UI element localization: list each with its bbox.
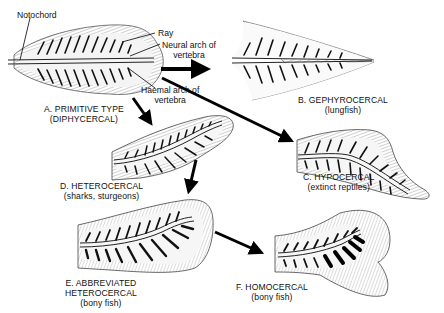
callout-haemal-arch: Haemal arch of vertebra <box>141 85 199 105</box>
tail-e-abbreviated-heterocercal-drawing <box>78 200 213 273</box>
callout-ray: Ray <box>158 28 173 38</box>
arrow-e-to-f <box>215 232 260 252</box>
label-tail-e: E. ABBREVIATED HETEROCERCAL (bony fish) <box>65 278 137 308</box>
callout-notochord: Notochord <box>17 10 57 20</box>
label-tail-b: B. GEPHYROCERCAL (lungfish) <box>298 95 388 115</box>
tail-b-gephyrocercal-drawing <box>232 21 374 100</box>
tail-d-heterocercal-drawing <box>112 116 233 180</box>
tail-a-primitive-drawing <box>8 18 163 94</box>
label-tail-a: A. PRIMITIVE TYPE (DIPHYCERCAL) <box>44 104 124 124</box>
diagram-artwork <box>0 0 444 313</box>
fin-evolution-diagram: Notochord Ray Neural arch of vertebra Ha… <box>0 0 444 313</box>
label-tail-c: C. HYPOCERCAL (extinct reptiles) <box>303 172 375 192</box>
arrow-d-to-e <box>189 160 196 190</box>
label-tail-d: D. HETEROCERCAL (sharks, sturgeons) <box>60 181 143 201</box>
label-tail-f: F. HOMOCERCAL (bony fish) <box>236 282 308 302</box>
callout-neural-arch: Neural arch of vertebra <box>162 40 216 60</box>
